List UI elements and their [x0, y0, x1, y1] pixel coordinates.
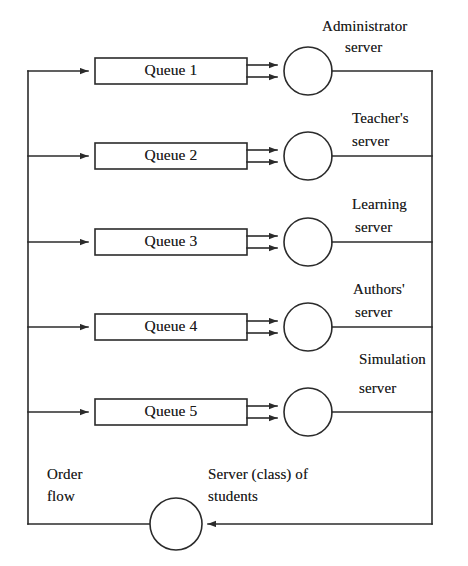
- server-label-authors-line1: Authors': [353, 282, 405, 297]
- server-label-teacher-line2: server: [352, 134, 389, 149]
- server-label-administrator-line1: Administrator: [322, 19, 407, 34]
- server-label-learning-line2: server: [355, 220, 392, 235]
- server-label-learning-line1: Learning: [352, 197, 407, 212]
- queue-label-5: Queue 5: [95, 403, 247, 419]
- queue-label-2: Queue 2: [95, 147, 247, 163]
- server-label-simulation-line2: server: [359, 381, 396, 396]
- student-server-label-line1: Server (class) of: [208, 467, 308, 482]
- order-flow-label-line1: Order: [47, 467, 82, 482]
- server-label-teacher-line1: Teacher's: [352, 111, 409, 126]
- server-label-administrator-line2: server: [345, 40, 382, 55]
- student-server-circle: [150, 498, 202, 550]
- server-label-authors-line2: server: [355, 305, 392, 320]
- queue-label-3: Queue 3: [95, 233, 247, 249]
- queue-label-1: Queue 1: [95, 62, 247, 78]
- student-server-label-line2: students: [208, 489, 258, 504]
- order-flow-label-line2: flow: [47, 489, 75, 504]
- diagram-canvas: Queue 1 Queue 2 Queue 3 Queue 4 Queue 5 …: [0, 0, 468, 566]
- queue-label-4: Queue 4: [95, 318, 247, 334]
- server-label-simulation-line1: Simulation: [359, 352, 426, 367]
